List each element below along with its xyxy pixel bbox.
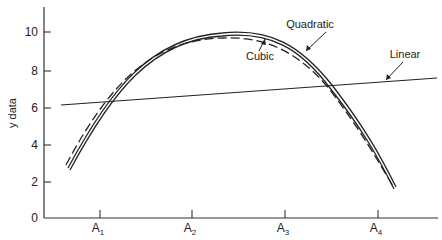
y-tick-label: 4 (31, 138, 38, 152)
y-axis-label: y data (6, 97, 18, 128)
y-tick-label: 0 (31, 211, 38, 225)
y-tick-label: 6 (31, 101, 38, 115)
annotation-cubic: Cubic (246, 50, 275, 62)
x-tick-label: A3 (277, 221, 290, 237)
annotation-linear: Linear (390, 48, 421, 60)
y-tick-label: 10 (25, 25, 39, 39)
axes (44, 7, 438, 218)
x-tick-labels: A1 A2 A3 A4 (92, 221, 383, 237)
x-tick-label: A4 (370, 221, 383, 237)
annotation-quadratic: Quadratic (286, 18, 334, 30)
y-tick-labels: 10 8 6 4 2 0 (25, 25, 39, 225)
y-tick-label: 2 (31, 175, 38, 189)
annotations: Quadratic Cubic Linear (246, 18, 421, 80)
x-ticks (100, 210, 378, 218)
x-tick-label: A2 (184, 221, 197, 237)
series-cubic (66, 38, 393, 186)
series-quadratic (68, 32, 396, 189)
y-ticks (44, 32, 51, 182)
y-tick-label: 8 (31, 64, 38, 78)
x-tick-label: A1 (92, 221, 105, 237)
arrowhead-quadratic-icon (306, 45, 311, 51)
chart: 10 8 6 4 2 0 y data A1 A2 A3 A4 Quadrati… (0, 0, 442, 240)
